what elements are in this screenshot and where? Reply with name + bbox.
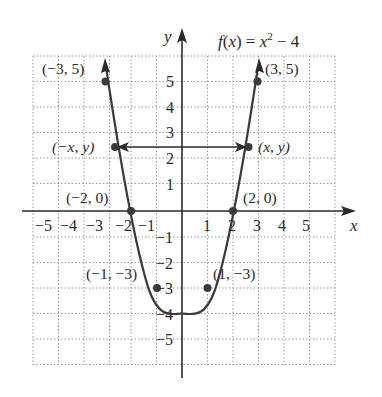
point-p2-0 <box>229 207 237 215</box>
label-p3-5: (3, 5) <box>265 60 299 78</box>
svg-text:5: 5 <box>302 217 310 234</box>
curve-right-arrow-icon <box>255 58 264 73</box>
label-p1-m3: (1, −3) <box>213 265 255 283</box>
svg-text:−5: −5 <box>156 331 173 348</box>
svg-text:3: 3 <box>253 217 261 234</box>
point-p3-5 <box>254 78 262 86</box>
svg-text:−2: −2 <box>156 255 173 272</box>
chart-title: f(x) = x2 − 4 <box>218 30 300 51</box>
label-px-y: (x, y) <box>258 138 290 156</box>
svg-text:−4: −4 <box>156 306 173 323</box>
svg-text:4: 4 <box>166 99 174 116</box>
svg-text:2: 2 <box>166 150 174 167</box>
svg-text:−5: −5 <box>35 217 52 234</box>
svg-text:−1: −1 <box>156 229 173 246</box>
point-m3-5 <box>102 78 110 86</box>
parabola-chart: f(x) = x2 − 4 y x −5 −4 −3 −2 −1 1 2 3 4… <box>0 0 382 397</box>
svg-text:−4: −4 <box>60 217 77 234</box>
point-px-y <box>245 143 253 151</box>
curve-left-arrow-icon <box>101 58 110 73</box>
svg-text:3: 3 <box>166 124 174 141</box>
x-axis-label: x <box>349 216 358 235</box>
svg-text:1: 1 <box>203 217 211 234</box>
svg-text:−2: −2 <box>115 217 132 234</box>
y-axis-label: y <box>162 27 172 46</box>
svg-text:−3: −3 <box>156 280 173 297</box>
point-p1-m3 <box>204 284 212 292</box>
svg-text:−3: −3 <box>86 217 103 234</box>
label-mx-y: (−x, y) <box>52 138 94 156</box>
svg-text:5: 5 <box>166 73 174 90</box>
svg-text:−1: −1 <box>138 217 155 234</box>
label-p2-0: (2, 0) <box>243 189 277 207</box>
point-mx-y <box>111 143 119 151</box>
svg-text:2: 2 <box>228 217 236 234</box>
label-m1-m3: (−1, −3) <box>86 265 137 283</box>
label-m3-5: (−3, 5) <box>42 60 84 78</box>
label-m2-0: (−2, 0) <box>66 189 108 207</box>
point-labels: (−3, 5) (3, 5) (−x, y) (x, y) (−2, 0) (2… <box>42 60 299 283</box>
svg-text:4: 4 <box>278 217 286 234</box>
svg-text:1: 1 <box>166 176 174 193</box>
point-m2-0 <box>127 207 135 215</box>
